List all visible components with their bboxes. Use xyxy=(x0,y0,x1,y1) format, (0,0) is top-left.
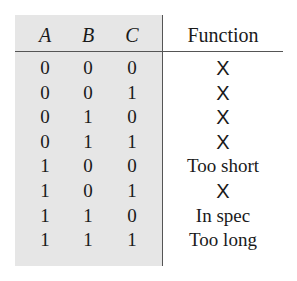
cell-function: X xyxy=(163,106,283,128)
cell-b: 0 xyxy=(68,82,108,104)
cell-c: 0 xyxy=(112,155,152,177)
cell-b: 0 xyxy=(68,155,108,177)
cell-function: Too short xyxy=(163,155,283,177)
cell-b: 1 xyxy=(68,229,108,251)
cell-b: 1 xyxy=(68,106,108,128)
header-function: Function xyxy=(163,24,283,46)
cell-c: 0 xyxy=(112,57,152,79)
cell-a: 1 xyxy=(25,180,65,202)
cell-b: 1 xyxy=(68,205,108,227)
cell-a: 1 xyxy=(25,205,65,227)
cell-a: 0 xyxy=(25,131,65,153)
cell-b: 1 xyxy=(68,131,108,153)
cell-function: X xyxy=(163,180,283,202)
cell-b: 0 xyxy=(68,57,108,79)
cell-c: 1 xyxy=(112,131,152,153)
header-b: B xyxy=(68,24,108,46)
cell-c: 1 xyxy=(112,180,152,202)
cell-a: 0 xyxy=(25,106,65,128)
cell-b: 0 xyxy=(68,180,108,202)
cell-function: Too long xyxy=(163,229,283,251)
cell-c: 1 xyxy=(112,82,152,104)
cell-function: X xyxy=(163,82,283,104)
cell-c: 0 xyxy=(112,106,152,128)
cell-function: In spec xyxy=(163,205,283,227)
cell-a: 1 xyxy=(25,155,65,177)
cell-a: 0 xyxy=(25,57,65,79)
header-a: A xyxy=(25,24,65,46)
cell-a: 0 xyxy=(25,82,65,104)
cell-function: X xyxy=(163,57,283,79)
header-rule xyxy=(15,51,283,52)
cell-c: 0 xyxy=(112,205,152,227)
cell-c: 1 xyxy=(112,229,152,251)
header-c: C xyxy=(112,24,152,46)
cell-function: X xyxy=(163,131,283,153)
cell-a: 1 xyxy=(25,229,65,251)
